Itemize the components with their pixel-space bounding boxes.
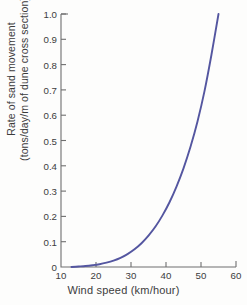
y-axis-tick-marks <box>61 14 66 242</box>
x-axis-tick-label: 10 <box>46 270 76 281</box>
chart-plot-area <box>0 0 247 305</box>
x-axis-tick-label: 50 <box>186 270 216 281</box>
x-axis-title: Wind speed (km/hour) <box>0 284 247 296</box>
x-axis-tick-marks <box>96 262 201 267</box>
data-curve-sand-movement <box>72 14 219 267</box>
x-axis-tick-label: 60 <box>221 270 247 281</box>
x-axis-tick-label: 30 <box>116 270 146 281</box>
axis-spines <box>61 14 236 267</box>
x-axis-tick-label: 40 <box>151 270 181 281</box>
x-axis-tick-label: 20 <box>81 270 111 281</box>
chart-figure: Rate of sand movement (tons/day/m of dun… <box>0 0 247 305</box>
